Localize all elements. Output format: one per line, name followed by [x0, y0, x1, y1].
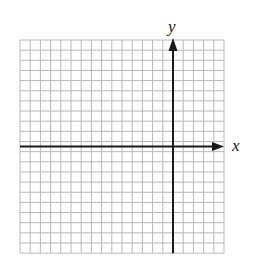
grid-svg [0, 0, 253, 261]
y-axis-label: y [168, 18, 176, 35]
x-axis-arrow-icon [212, 142, 224, 151]
x-axis-label: x [232, 137, 240, 154]
